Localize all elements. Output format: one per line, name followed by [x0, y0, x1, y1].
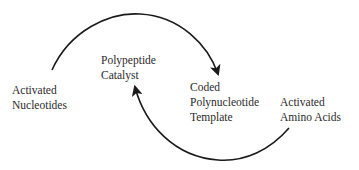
node-coded-polynucleotide-template: Coded Polynucleotide Template	[190, 80, 259, 125]
node-label-line: Coded	[190, 80, 259, 95]
node-activated-nucleotides: Activated Nucleotides	[12, 83, 67, 113]
node-label-line: Activated	[280, 95, 341, 110]
node-label-line: Amino Acids	[280, 110, 341, 125]
node-activated-amino-acids: Activated Amino Acids	[280, 95, 341, 125]
cycle-diagram: Activated Nucleotides Polypeptide Cataly…	[0, 0, 359, 170]
node-label-line: Template	[190, 110, 259, 125]
node-label-line: Nucleotides	[12, 98, 67, 113]
node-label-line: Polypeptide	[101, 53, 156, 68]
node-label-line: Polynucleotide	[190, 95, 259, 110]
node-label-line: Catalyst	[101, 68, 156, 83]
node-polypeptide-catalyst: Polypeptide Catalyst	[101, 53, 156, 83]
node-label-line: Activated	[12, 83, 67, 98]
